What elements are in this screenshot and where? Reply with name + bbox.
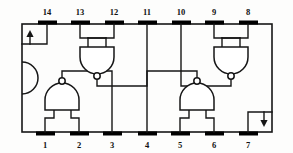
pin-label-11: 11 [143,7,151,17]
gnd-connection-pin-7 [248,112,272,132]
nand-gate-a [45,78,79,110]
pin-label-6: 6 [212,140,216,150]
pin-label-10: 10 [177,7,186,17]
nand-gate-d [214,47,248,79]
ic-schematic-svg: 14 13 12 11 10 9 8 1 2 3 4 5 6 7 [0,0,293,153]
pin-label-13: 13 [76,7,85,17]
nand-gate-c [180,78,214,110]
ic-pinout-diagram: 14 13 12 11 10 9 8 1 2 3 4 5 6 7 [0,0,293,153]
nand-gate-b [80,47,114,79]
pin-label-8: 8 [246,7,250,17]
pin-label-4: 4 [145,140,150,150]
vcc-connection-pin-14 [22,24,47,44]
pin-label-5: 5 [178,140,182,150]
pin-label-14: 14 [43,7,52,17]
vcc-up-arrow-icon [26,30,33,37]
pin-label-7: 7 [246,140,251,150]
pin-label-3: 3 [110,140,114,150]
pin-label-2: 2 [77,140,81,150]
top-pin-labels: 14 13 12 11 10 9 8 [43,7,250,17]
pin-label-9: 9 [212,7,216,17]
pin-label-1: 1 [43,140,47,150]
pin-1-orientation-notch [22,62,38,94]
gnd-down-arrow-icon [260,120,267,127]
pin-label-12: 12 [110,7,119,17]
bottom-pin-labels: 1 2 3 4 5 6 7 [43,140,251,150]
